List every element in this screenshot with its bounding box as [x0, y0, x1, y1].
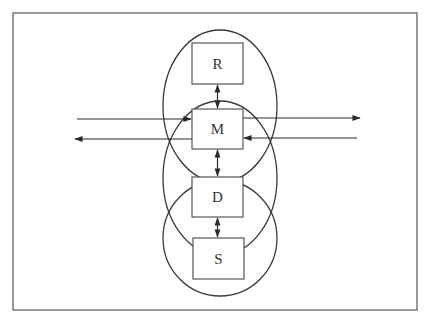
box-label: D [212, 189, 223, 205]
box-d: D [192, 177, 243, 217]
box-label: R [212, 56, 222, 72]
box-r: R [192, 43, 243, 84]
layered-diagram: RMDS [0, 0, 428, 323]
box-label: S [214, 251, 222, 267]
box-m: M [192, 109, 243, 149]
box-s: S [193, 238, 244, 279]
box-label: M [211, 121, 224, 137]
